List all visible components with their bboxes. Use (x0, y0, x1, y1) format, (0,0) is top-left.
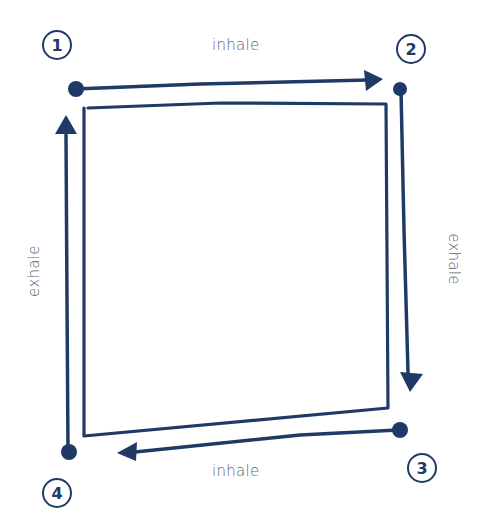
step-number-4: 4 (42, 478, 72, 508)
step-number-2: 2 (396, 34, 426, 64)
arrowhead-right-icon (364, 70, 383, 91)
arrow-top-line (75, 80, 368, 89)
inner-square (84, 103, 388, 436)
label-right-exhale: exhale (445, 233, 463, 285)
step-number-3: 3 (407, 453, 437, 483)
label-top-inhale: inhale (212, 36, 260, 54)
arrow-bottom-line (135, 430, 398, 452)
dot-step-3 (392, 422, 408, 438)
step-number-1: 1 (42, 30, 72, 60)
arrow-right-line (401, 90, 408, 372)
box-breathing-diagram (0, 0, 483, 532)
arrowhead-down-icon (400, 372, 423, 392)
dot-step-4 (61, 444, 77, 460)
label-bottom-inhale: inhale (212, 462, 260, 480)
arrowhead-left-icon (117, 442, 137, 461)
label-left-exhale: exhale (25, 245, 43, 297)
arrowhead-up-icon (55, 115, 77, 134)
dot-step-2 (393, 82, 407, 96)
arrow-left-line (66, 135, 68, 452)
dot-step-1 (68, 81, 84, 97)
